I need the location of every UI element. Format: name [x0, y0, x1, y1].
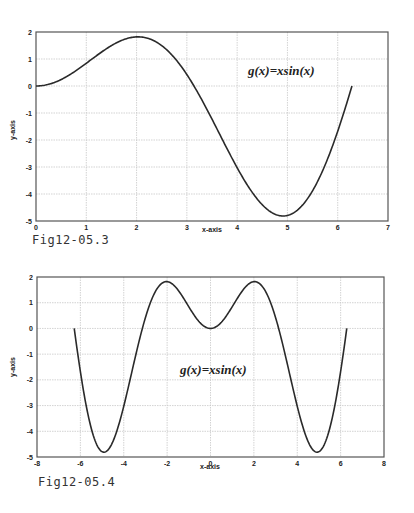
plot-frame — [36, 32, 388, 221]
chart-xsinx-0-to-2pi: 01234567-5-4-3-2-1012x-axisy-axisg(x)=xs… — [0, 0, 414, 260]
y-tick-label: -3 — [26, 164, 32, 171]
x-axis-label: x-axis — [200, 463, 220, 470]
x-tick-label: -6 — [77, 460, 83, 467]
grid-lines — [36, 32, 388, 221]
y-tick-label: -3 — [27, 402, 33, 409]
tick-labels: 01234567-5-4-3-2-1012 — [26, 29, 390, 232]
y-axis-label: y-axis — [9, 357, 17, 377]
y-tick-label: -1 — [27, 351, 33, 358]
x-tick-label: 1 — [84, 224, 88, 231]
y-tick-label: 0 — [28, 83, 32, 90]
function-annotation: g(x)=xsin(x) — [247, 63, 315, 78]
x-tick-label: -4 — [121, 460, 127, 467]
y-tick-label: 0 — [29, 325, 33, 332]
x-tick-label: -8 — [34, 460, 40, 467]
x-tick-label: 8 — [382, 460, 386, 467]
x-tick-label: -2 — [164, 460, 170, 467]
x-tick-label: 5 — [285, 224, 289, 231]
y-tick-label: 1 — [29, 299, 33, 306]
y-tick-label: 1 — [28, 56, 32, 63]
y-tick-label: -1 — [26, 110, 32, 117]
y-tick-label: -2 — [26, 137, 32, 144]
y-tick-label: 2 — [28, 29, 32, 36]
y-tick-label: -5 — [26, 218, 32, 225]
y-tick-label: -5 — [27, 454, 33, 461]
x-tick-label: 6 — [339, 460, 343, 467]
figure-12-05-4: -8-6-4-202468-5-4-3-2-1012x-axisy-axisg(… — [0, 262, 414, 513]
figure-caption: Fig12-05.3 — [32, 233, 109, 247]
y-axis-label: y-axis — [9, 120, 17, 140]
figure-caption: Fig12-05.4 — [38, 475, 115, 489]
y-tick-label: -4 — [27, 428, 33, 435]
function-annotation: g(x)=xsin(x) — [179, 362, 247, 377]
x-tick-label: 3 — [185, 224, 189, 231]
x-tick-label: 4 — [295, 460, 299, 467]
y-tick-label: -2 — [27, 376, 33, 383]
y-tick-label: 2 — [29, 274, 33, 281]
x-tick-label: 0 — [34, 224, 38, 231]
x-tick-label: 7 — [386, 224, 390, 231]
x-tick-label: 2 — [252, 460, 256, 467]
x-tick-label: 6 — [336, 224, 340, 231]
figure-12-05-3: 01234567-5-4-3-2-1012x-axisy-axisg(x)=xs… — [0, 0, 414, 260]
x-axis-label: x-axis — [202, 226, 222, 233]
x-tick-label: 4 — [235, 224, 239, 231]
y-tick-label: -4 — [26, 191, 32, 198]
x-tick-label: 2 — [135, 224, 139, 231]
